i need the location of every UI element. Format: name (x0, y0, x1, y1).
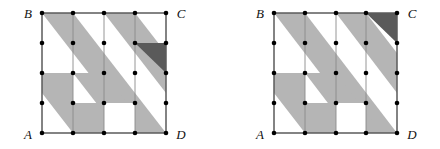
right-stripes (274, 13, 397, 149)
lattice-dot (71, 101, 76, 106)
lattice-dot (364, 11, 369, 16)
lattice-dot (164, 11, 169, 16)
lattice-dot (164, 131, 169, 136)
lattice-dot (272, 101, 277, 106)
label-d: D (406, 127, 417, 142)
lattice-dot (364, 41, 369, 46)
lattice-dot (164, 101, 169, 106)
lattice-dot (303, 131, 308, 136)
lattice-dot (40, 131, 45, 136)
lattice-dot (164, 41, 169, 46)
lattice-dot (364, 71, 369, 76)
lattice-dot (272, 41, 277, 46)
lattice-dot (40, 101, 45, 106)
lattice-dot (303, 101, 308, 106)
label-c: C (408, 6, 417, 21)
label-b: B (24, 6, 32, 21)
lattice-dot (40, 41, 45, 46)
lattice-dot (102, 11, 107, 16)
lattice-dot (334, 131, 339, 136)
lattice-dot (395, 71, 400, 76)
lattice-dot (133, 71, 138, 76)
lattice-dot (303, 11, 308, 16)
lattice-dot (272, 71, 277, 76)
lattice-figure-pair: B C A D (0, 0, 440, 149)
lattice-dot (303, 41, 308, 46)
lattice-dot (71, 41, 76, 46)
lattice-dot (334, 41, 339, 46)
lattice-dot (71, 11, 76, 16)
right-diagram: B C A D (220, 0, 440, 149)
lattice-dot (102, 71, 107, 76)
lattice-dot (334, 11, 339, 16)
lattice-dot (334, 71, 339, 76)
lattice-dot (133, 41, 138, 46)
lattice-dot (395, 131, 400, 136)
lattice-dot (364, 131, 369, 136)
lattice-dot (272, 11, 277, 16)
lattice-dot (102, 101, 107, 106)
left-diagram: B C A D (0, 0, 220, 149)
lattice-dot (334, 101, 339, 106)
label-b: B (256, 6, 264, 21)
lattice-dot (395, 41, 400, 46)
lattice-dot (40, 11, 45, 16)
lattice-dot (133, 131, 138, 136)
label-d: D (175, 127, 186, 142)
lattice-dot (395, 11, 400, 16)
lattice-dot (40, 71, 45, 76)
lattice-dot (395, 101, 400, 106)
label-a: A (255, 127, 264, 142)
lattice-dot (164, 71, 169, 76)
lattice-dot (272, 131, 277, 136)
lattice-dot (71, 71, 76, 76)
lattice-dot (133, 11, 138, 16)
label-c: C (177, 6, 186, 21)
lattice-dot (303, 71, 308, 76)
lattice-dot (102, 41, 107, 46)
lattice-dot (102, 131, 107, 136)
label-a: A (23, 127, 32, 142)
lattice-dot (71, 131, 76, 136)
lattice-dot (364, 101, 369, 106)
lattice-dot (133, 101, 138, 106)
